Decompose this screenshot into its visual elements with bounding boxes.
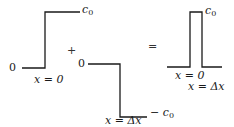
step1-left-level: 0 — [9, 62, 16, 73]
step-function-diagram — [0, 0, 234, 127]
step1-right-level-subscript: 0 — [88, 8, 93, 17]
pulse-top-level: c0 — [205, 5, 216, 18]
pulse-curve — [167, 12, 222, 67]
pulse-top-level-subscript: 0 — [211, 9, 216, 18]
step2-left-level: 0 — [78, 58, 85, 69]
plus-operator: + — [67, 45, 76, 56]
negative-step-curve — [88, 64, 147, 117]
pulse-right-edge-label: x = Δx — [188, 81, 225, 92]
step2-right-level-subscript: 0 — [169, 111, 174, 120]
step2-right-level-symbol: − c — [150, 106, 169, 119]
step1-location-label: x = 0 — [34, 74, 63, 85]
positive-step-curve — [22, 12, 80, 68]
step1-right-level: c0 — [82, 4, 93, 17]
equals-operator: = — [148, 41, 157, 52]
step2-right-level: − c0 — [150, 107, 174, 120]
step2-location-label: x = Δx — [105, 115, 142, 126]
